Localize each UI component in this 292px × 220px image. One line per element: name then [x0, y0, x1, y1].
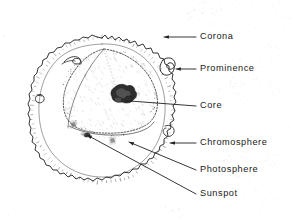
label-sunspot: Sunspot	[200, 188, 238, 198]
label-chromosphere: Chromosphere	[200, 137, 267, 147]
solar-disc	[28, 34, 176, 184]
core-blob	[111, 84, 137, 103]
label-photosphere: Photosphere	[200, 164, 258, 174]
sun-structure-figure: CoronaProminenceCoreChromospherePhotosph…	[0, 0, 292, 220]
arrowhead-prominence	[176, 67, 181, 71]
arrowhead-chromosphere	[170, 141, 175, 145]
callout-corona: Corona	[164, 31, 234, 41]
sunspot-mid	[109, 136, 116, 145]
sunspot-left	[70, 120, 77, 129]
label-prominence: Prominence	[200, 63, 255, 73]
callout-prominence: Prominence	[176, 63, 255, 73]
callout-chromosphere: Chromosphere	[170, 137, 267, 147]
label-corona: Corona	[200, 31, 234, 41]
label-core: Core	[200, 100, 222, 110]
arrowhead-corona	[164, 35, 169, 39]
sun-diagram-page: CoronaProminenceCoreChromospherePhotosph…	[0, 0, 292, 220]
